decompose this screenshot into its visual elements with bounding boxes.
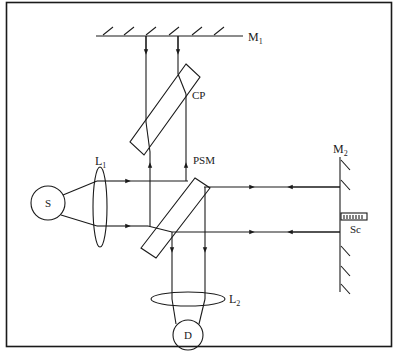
label-source: S [45,197,51,209]
figure-frame [7,3,392,347]
label-m1: M1 [248,30,263,46]
beam-splitter-psm [141,178,210,258]
label-l1: L1 [95,154,106,170]
label-psm: PSM [193,154,215,166]
ray-source-to-lens [61,181,97,226]
lens-l2 [151,292,225,306]
label-scale: Sc [350,223,361,235]
interferometer-diagram: M1 M2 CP PSM L1 L2 S D Sc [0,0,400,355]
label-detector: D [184,329,192,341]
mirror-m1 [96,27,243,36]
lens-l1 [93,167,107,247]
ray-lens-to-psm [97,181,188,232]
label-m2: M2 [333,142,348,158]
mirror-m2 [340,157,350,294]
ray-psm-to-detector [172,187,205,324]
label-cp: CP [192,89,205,101]
ray-psm-to-m2 [172,187,340,232]
label-l2: L2 [229,292,240,308]
scale-sc [341,213,367,220]
compensating-plate-cp [130,64,200,155]
